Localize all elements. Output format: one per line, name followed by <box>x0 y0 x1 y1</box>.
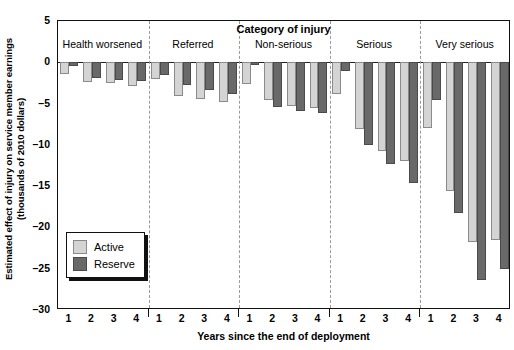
x-axis-tick-label: 2 <box>445 312 461 324</box>
bar-active <box>174 62 183 96</box>
legend-label-active: Active <box>94 241 124 253</box>
x-axis-tick-label: 3 <box>287 312 303 324</box>
chart-legend: Active Reserve <box>66 232 145 278</box>
x-axis-tick-label: 3 <box>468 312 484 324</box>
group-separator <box>330 21 331 308</box>
x-axis-tick-label: 2 <box>174 312 190 324</box>
x-axis-tick-label: 3 <box>377 312 393 324</box>
bar-reserve <box>296 62 305 111</box>
bar-active <box>491 62 500 240</box>
bar-active <box>310 62 319 107</box>
x-axis-tick-label: 1 <box>242 312 258 324</box>
x-axis-tick-label: 2 <box>355 312 371 324</box>
legend-label-reserve: Reserve <box>94 258 135 270</box>
bar-active <box>128 62 137 86</box>
x-axis-tick-label: 1 <box>332 312 348 324</box>
category-label-non-serious: Non-serious <box>238 38 329 50</box>
group-separator <box>239 21 240 308</box>
bar-reserve <box>273 62 282 107</box>
y-axis-tick-label: –10 <box>20 138 50 150</box>
x-axis-tick-label: 4 <box>128 312 144 324</box>
x-axis-tick-label: 4 <box>491 312 507 324</box>
x-axis-tick-label: 1 <box>151 312 167 324</box>
bar-reserve <box>364 62 373 145</box>
bar-active <box>264 62 273 100</box>
x-axis-tick-label: 3 <box>196 312 212 324</box>
x-axis-tick-label: 1 <box>423 312 439 324</box>
bar-reserve <box>454 62 463 213</box>
x-axis-tick-label: 3 <box>106 312 122 324</box>
legend-swatch-active-icon <box>73 240 87 254</box>
y-axis-tick-label: –25 <box>20 262 50 274</box>
bar-active <box>219 62 228 102</box>
bar-active <box>332 62 341 94</box>
bar-reserve <box>183 62 192 84</box>
bar-active <box>423 62 432 127</box>
bar-reserve <box>115 62 124 79</box>
category-label-very-serious: Very serious <box>419 38 510 50</box>
bar-active <box>287 62 296 106</box>
x-axis-group-tick <box>329 309 330 317</box>
legend-item-active[interactable]: Active <box>73 238 135 255</box>
y-axis-tick-label: –30 <box>20 303 50 315</box>
x-axis-tick-label: 4 <box>309 312 325 324</box>
bar-active <box>446 62 455 191</box>
bar-reserve <box>386 62 395 164</box>
bar-active <box>106 62 115 83</box>
chart-title: Category of injury <box>57 23 510 35</box>
x-axis-tick-label: 2 <box>83 312 99 324</box>
bar-reserve <box>477 62 486 280</box>
y-axis-title-line2: (thousands of 2010 dollars) <box>15 38 27 280</box>
x-axis-tick-label: 2 <box>264 312 280 324</box>
y-axis-tick-label: –5 <box>20 97 50 109</box>
x-axis-title: Years since the end of deployment <box>57 330 510 342</box>
bar-active <box>242 62 251 83</box>
bar-reserve <box>432 62 441 100</box>
bar-reserve <box>228 62 237 93</box>
chart-figure: Estimated effect of injury on service me… <box>0 0 514 350</box>
x-axis-group-tick <box>238 309 239 317</box>
category-label-serious: Serious <box>329 38 420 50</box>
bar-reserve <box>92 62 101 78</box>
y-axis-tick-label: 5 <box>20 14 50 26</box>
bar-active <box>196 62 205 99</box>
x-axis-tick-label: 4 <box>219 312 235 324</box>
bar-active <box>355 62 364 129</box>
bar-reserve <box>205 62 214 89</box>
bar-active <box>400 62 409 160</box>
y-axis-tick-label: 0 <box>20 55 50 67</box>
bar-reserve <box>137 62 146 81</box>
bar-active <box>468 62 477 242</box>
bar-reserve <box>409 62 418 183</box>
bar-reserve <box>160 62 169 74</box>
bar-active <box>83 62 92 82</box>
bar-active <box>60 62 69 74</box>
group-separator <box>149 21 150 308</box>
x-axis-group-tick <box>419 309 420 317</box>
y-axis-tick-label: –20 <box>20 220 50 232</box>
bar-reserve <box>500 62 509 268</box>
y-axis-tick-label: –15 <box>20 179 50 191</box>
x-axis-tick-label: 1 <box>60 312 76 324</box>
bar-active <box>378 62 387 150</box>
legend-item-reserve[interactable]: Reserve <box>73 255 135 272</box>
zero-baseline <box>58 62 509 63</box>
bar-reserve <box>341 62 350 70</box>
category-label-health-worsened: Health worsened <box>57 38 148 50</box>
bar-reserve <box>318 62 327 112</box>
x-axis-tick-label: 4 <box>400 312 416 324</box>
category-label-referred: Referred <box>148 38 239 50</box>
group-separator <box>420 21 421 308</box>
bar-active <box>151 62 160 79</box>
y-axis-title-line1: Estimated effect of injury on service me… <box>3 38 15 280</box>
x-axis-group-tick <box>148 309 149 317</box>
bar-reserve <box>251 62 260 64</box>
bar-reserve <box>69 62 78 66</box>
legend-swatch-reserve-icon <box>73 257 87 271</box>
